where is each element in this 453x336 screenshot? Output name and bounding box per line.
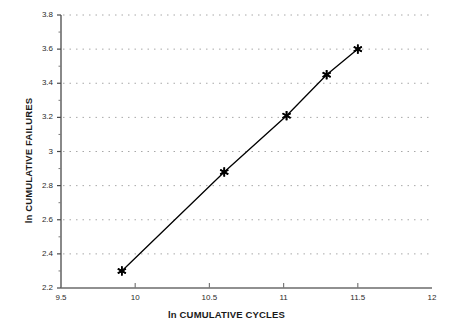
x-axis-tick-label: 11 <box>264 293 304 302</box>
x-axis-tick-label: 11.5 <box>338 293 378 302</box>
series-line <box>122 49 358 271</box>
data-series <box>118 45 362 276</box>
gridlines <box>63 15 432 254</box>
y-axis-tick-label: 3.8 <box>13 10 53 19</box>
y-axis-tick-label: 2.2 <box>13 283 53 292</box>
x-axis-tick-label: 10.5 <box>189 293 229 302</box>
x-axis-tick-label: 10 <box>115 293 155 302</box>
x-axis-tick-label: 9.5 <box>41 293 81 302</box>
x-axis-tick-label: 12 <box>412 293 452 302</box>
x-axis-title: ln CUMULATIVE CYCLES <box>0 309 453 320</box>
y-axis-tick-label: 3.6 <box>13 44 53 53</box>
data-point-marker <box>354 45 362 54</box>
y-axis-title: ln CUMULATIVE FAILURES <box>23 61 34 261</box>
chart-container: 2.22.42.62.833.23.43.63.8 9.51010.51111.… <box>0 0 453 336</box>
plot-area <box>0 0 453 336</box>
